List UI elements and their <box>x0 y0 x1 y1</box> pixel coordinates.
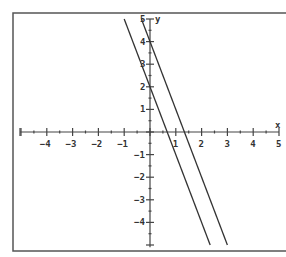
y-tick-label: −4 <box>134 217 145 227</box>
y-axis-label: y <box>155 14 161 24</box>
x-tick-label: 2 <box>199 139 204 149</box>
y-tick-label: −3 <box>134 195 145 205</box>
y-tick-label: 5 <box>140 14 145 24</box>
x-tick-label: 1 <box>173 139 178 149</box>
axes <box>20 19 279 247</box>
x-tick-label: 5 <box>276 139 281 149</box>
tick-labels: −4−3−2−11234554321−1−2−3−4xy <box>40 14 282 227</box>
graph: −4−3−2−11234554321−1−2−3−4xy <box>0 0 286 257</box>
y-tick-label: −1 <box>134 150 145 160</box>
x-tick-label: −1 <box>117 139 128 149</box>
y-tick-label: 3 <box>140 59 145 69</box>
x-tick-label: −2 <box>91 139 102 149</box>
x-axis-label: x <box>275 120 281 130</box>
y-tick-label: 2 <box>140 82 145 92</box>
x-tick-label: −4 <box>40 139 51 149</box>
y-tick-label: −2 <box>134 172 145 182</box>
x-tick-label: 3 <box>224 139 229 149</box>
y-tick-label: 1 <box>140 104 145 114</box>
x-tick-label: −3 <box>66 139 77 149</box>
y-tick-label: 4 <box>140 37 146 47</box>
x-tick-label: 4 <box>250 139 256 149</box>
